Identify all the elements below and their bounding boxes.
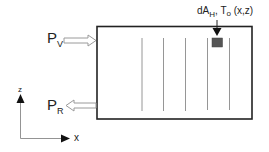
- inlet-symbol: P: [47, 29, 57, 46]
- x-axis-label: x: [74, 133, 79, 143]
- area-element: [212, 38, 223, 47]
- z-axis-arrowhead-icon: [17, 94, 25, 103]
- z-axis-label: z: [18, 86, 22, 94]
- element-label-coords: (x,z): [231, 5, 253, 16]
- outlet-pressure-label: PR: [47, 97, 64, 112]
- element-label-temp: , T: [215, 5, 226, 16]
- collector-box: [97, 27, 252, 120]
- diagram-canvas: [0, 0, 269, 152]
- element-label: dAH, To (x,z): [197, 6, 253, 16]
- inlet-pressure-label: PV: [47, 30, 63, 45]
- element-label-main: dA: [197, 5, 209, 16]
- inlet-subscript: V: [57, 39, 63, 49]
- inlet-arrow-icon: [64, 35, 96, 46]
- element-label-subscript: H: [209, 10, 215, 19]
- x-axis-arrowhead-icon: [61, 135, 70, 143]
- element-label-temp-subscript: o: [227, 9, 231, 18]
- outlet-arrow-icon: [66, 100, 96, 111]
- outlet-symbol: P: [47, 96, 57, 113]
- outlet-subscript: R: [57, 106, 64, 116]
